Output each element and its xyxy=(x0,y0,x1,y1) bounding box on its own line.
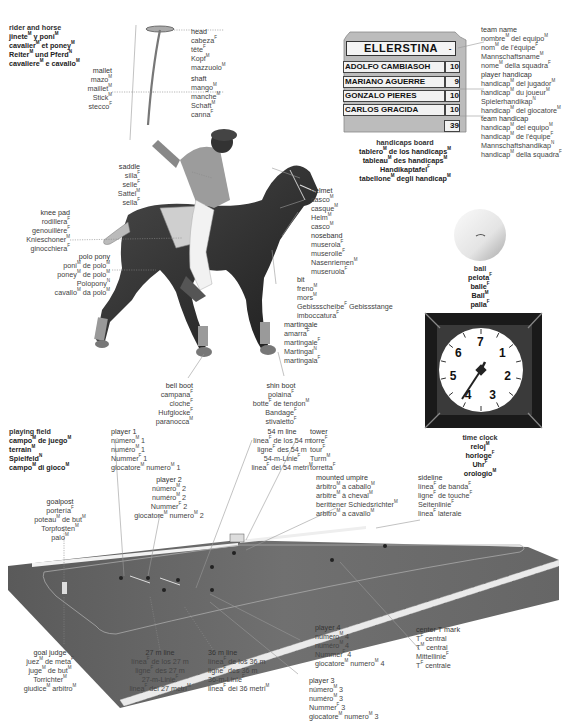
clock-number: 1 xyxy=(499,346,506,360)
term-line: saddle xyxy=(100,162,140,171)
term-line: martingale xyxy=(284,320,320,329)
term-line: amarraF xyxy=(284,329,320,338)
term-line: polo pony xyxy=(30,252,110,261)
term-line: lineaF dei 54 metriM xyxy=(248,463,316,472)
term-line: MannschaftshandikapN xyxy=(481,141,562,150)
term-line: mancheM xyxy=(191,92,220,101)
term-line: selleF xyxy=(100,180,140,189)
term-line: cascoM xyxy=(311,222,338,231)
term-line: handicapM della squadraF xyxy=(481,150,562,159)
term-line: TM central xyxy=(416,643,460,652)
board-team-total: 39 xyxy=(444,120,460,132)
label-player-4: player 4númeroM 4numéroM 4NummerF 4gioca… xyxy=(315,623,384,668)
term-line: arbitreM à chevalM xyxy=(316,491,398,500)
label-bell-boot: bell bootcampanaFclocheFHufglockeFparano… xyxy=(140,381,193,426)
term-line: líneaF de los 27 m xyxy=(128,657,192,666)
term-line: rodilleraF xyxy=(20,217,70,226)
term-line: sellaF xyxy=(100,198,140,207)
term-line: MartingalN xyxy=(284,347,320,356)
term-line: ligneF des 27 m xyxy=(128,666,192,675)
label-shaft: shaftmangoMmancheMSchaftMcannaF xyxy=(191,74,220,119)
player-name: MARIANO AGUERRE xyxy=(343,76,445,88)
board-player-row: MARIANO AGUERRE9 xyxy=(343,76,459,87)
term-line: líneaF de los 36 m xyxy=(208,657,269,666)
term-line: rider and horse xyxy=(9,23,80,32)
term-line: nombreM del equipoM xyxy=(481,34,551,43)
term-line: campoM de juegoM xyxy=(9,436,71,445)
term-line: nomeM della squadraF xyxy=(481,61,551,70)
term-line: torrettaF xyxy=(310,463,336,472)
term-line: poneyM de poloM xyxy=(30,270,110,279)
term-line: berittener SchiedsrichterM xyxy=(316,500,398,509)
term-line: jugeM de butM xyxy=(20,666,80,675)
term-line: muserolleF xyxy=(311,249,358,258)
label-knee-pad: knee padrodilleraFgenouillèreFKnieschone… xyxy=(20,208,70,253)
term-line: SpielerhandikapN xyxy=(481,97,561,106)
term-line: SeitenlinieF xyxy=(418,500,472,509)
playing-field-graphic xyxy=(8,526,559,708)
term-line: frenoM xyxy=(297,284,393,293)
term-line: 36 m line xyxy=(208,648,269,657)
term-line: tableroM de los handicapsM xyxy=(355,147,455,156)
label-mallet: malletmazoMmailletMStickMsteccoF xyxy=(64,66,112,111)
term-line: paloM xyxy=(30,533,90,542)
label-team-handicap: team handicaphandicapM del equipoMhandic… xyxy=(481,114,562,159)
term-line: arbitroM a cavalloM xyxy=(316,509,398,518)
term-line: pelotaF xyxy=(455,273,505,282)
term-line: GebissscheibeF Gebissstange xyxy=(297,302,393,311)
term-line: UhrF xyxy=(455,460,505,469)
term-line: ligneF de toucheF xyxy=(418,491,472,500)
player-name: ADOLFO CAMBIASOH xyxy=(343,61,445,73)
label-center-t-mark: center T markTF centralTM centralMittell… xyxy=(416,625,460,670)
player-name: GONZALO PIERES xyxy=(343,90,445,102)
term-line: MannschaftsnameM xyxy=(481,52,551,61)
term-line: player 2 xyxy=(133,475,205,484)
term-line: stivalettoF xyxy=(245,417,317,426)
term-line: balleF xyxy=(455,282,505,291)
term-line: tableauM des handicapsM xyxy=(355,156,455,165)
player-handicap-value: 9 xyxy=(445,76,460,88)
term-line: mazoM xyxy=(64,75,112,84)
term-line: player 3 xyxy=(309,676,378,685)
term-line: goalpost xyxy=(30,497,90,506)
term-line: genouillèreF xyxy=(20,226,70,235)
term-line: campanaF xyxy=(140,390,193,399)
term-line: casqueM xyxy=(311,204,338,213)
term-line: 27 m line xyxy=(128,648,192,657)
label-team-name: team namenombreM del equipoMnomM de l'éq… xyxy=(481,25,551,70)
term-line: poniM de poloM xyxy=(30,261,110,270)
clock-number: 4 xyxy=(465,388,472,402)
term-line: 36-m-LinieF xyxy=(208,675,269,684)
term-line: bell boot xyxy=(140,381,193,390)
term-line: bit xyxy=(297,275,393,284)
label-goal-judge: goal judgejuezM de metaFjugeM de butMTor… xyxy=(20,648,80,693)
label-bit: bitfrenoMmorsMGebissscheibeF Gebissstang… xyxy=(297,275,393,320)
time-clock-graphic xyxy=(425,313,542,428)
term-line: steccoF xyxy=(64,102,112,111)
player-handicap-value: 10 xyxy=(445,90,460,102)
term-line: cannaF xyxy=(191,110,220,119)
term-line: jineteM y poniM xyxy=(9,32,80,41)
term-line: helmet xyxy=(311,186,338,195)
term-line: SattelM xyxy=(100,189,140,198)
term-line: playing field xyxy=(9,427,71,436)
label-head: headcabezaFtêteFKopfMmazzuoloM xyxy=(191,27,226,72)
term-line: NasenriemenM xyxy=(311,258,358,267)
clock-number: 2 xyxy=(504,369,511,383)
clock-number: 6 xyxy=(455,346,462,360)
term-line: time clock xyxy=(455,433,505,442)
term-line: tourF xyxy=(310,445,336,454)
label-shin-boot: shin bootpolainaFbotteF de tendonMBandag… xyxy=(245,381,317,426)
term-line: HandikaptafelF xyxy=(355,165,455,174)
term-line: handicaps board xyxy=(355,138,455,147)
term-line: martingalaF xyxy=(284,356,320,365)
term-line: SpielfeldN xyxy=(9,454,71,463)
term-line: líneaF de bandaF xyxy=(418,482,472,491)
team-name-text: ELLERSTINA xyxy=(364,42,438,54)
term-line: knee pad xyxy=(20,208,70,217)
term-line: cabezaF xyxy=(191,36,226,45)
term-line: handicapM de l'équipeF xyxy=(481,132,562,141)
term-line: PoloponyN xyxy=(30,279,110,288)
term-line: shin boot xyxy=(245,381,317,390)
term-line: handicapM du joueurM xyxy=(481,88,561,97)
